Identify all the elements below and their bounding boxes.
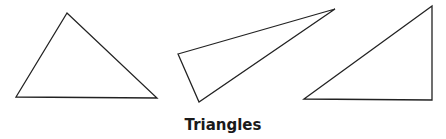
right-triangle	[304, 6, 432, 100]
triangles-figure	[0, 0, 446, 110]
figure-caption: Triangles	[0, 116, 446, 134]
acute-triangle	[16, 13, 157, 98]
obtuse-triangle	[178, 9, 335, 102]
